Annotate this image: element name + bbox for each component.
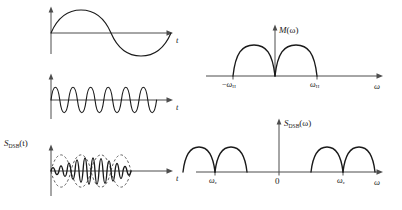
dsb-spectrum-x-axis-label: ω [374,178,380,187]
dsb-tick-right-main: ω [337,176,343,185]
dsb-spectrum-y-label-main: S [284,118,289,128]
message-spectrum-tick-label-right: ωH [310,81,319,89]
message-spectrum-x-axis-label: ω [374,82,380,91]
dsb-tick-left-main: ω [209,176,215,185]
message-spectrum-y-label-arg: (ω) [287,25,299,35]
dsb-spectrum-lobe-pos-upper [343,147,375,172]
dsb-tick-left-sub: c [215,180,217,185]
spectrum-lobe-right [275,45,317,76]
y-axis-arrowhead [49,74,54,80]
y-axis-arrowhead [273,25,278,31]
dsb-spectrum-y-axis-label: SDSB(ω) [284,119,311,128]
dsb-spectrum-lobe-neg-upper [215,147,247,172]
dsb-time-y-axis-label: SDSB(t) [4,139,28,148]
y-axis-arrowhead [49,145,54,151]
dsb-time-y-label-sub: DSB [9,143,20,149]
panel-message-time: t [40,4,190,60]
dsb-time-y-label-main: S [4,138,9,148]
dsb-modulated-curve [51,158,131,184]
dsb-spectrum-origin-label: 0 [275,177,280,186]
dsb-spectrum-y-label-sub: DSB [289,123,300,129]
message-spectrum-y-axis-label: M(ω) [279,26,298,35]
dsb-spectrum-lobe-pos-lower [311,147,343,172]
panel-carrier-time: t [40,67,190,123]
spectrum-lobe-left [233,45,275,76]
panel-dsb-spectrum: SDSB(ω) ωc 0 ωc ω [196,112,398,194]
x-axis-arrowhead [377,169,384,174]
message-time-x-axis-label: t [176,36,178,45]
y-axis-arrowhead [49,7,54,13]
dsb-tick-right-sub: c [343,180,345,185]
x-axis-arrowhead [167,168,174,173]
message-spectrum-y-label-main: M [279,25,287,35]
panel-message-spectrum: M(ω) −ωH ωH ω [206,12,396,90]
tick-right-sub: H [316,84,320,89]
panel-dsb-time: t [40,140,190,202]
carrier-time-x-axis-label: t [176,103,178,112]
dsb-time-x-axis-label: t [176,174,178,183]
dsb-time-y-label-arg: (t) [19,138,28,148]
dsb-spectrum-y-label-arg: (ω) [299,118,311,128]
tick-right-main: ω [310,80,316,89]
x-axis-arrowhead [377,73,384,78]
message-spectrum-tick-label-left: −ωH [222,81,236,89]
dsb-modulation-figure: t t t SDSB(t) [0,0,402,210]
dsb-spectrum-tick-label-right: ωc [337,177,345,185]
tick-left-sub: H [232,84,236,89]
x-axis-arrowhead [167,97,174,102]
dsb-spectrum-tick-label-left: ωc [209,177,217,185]
y-axis-arrowhead [277,119,282,125]
